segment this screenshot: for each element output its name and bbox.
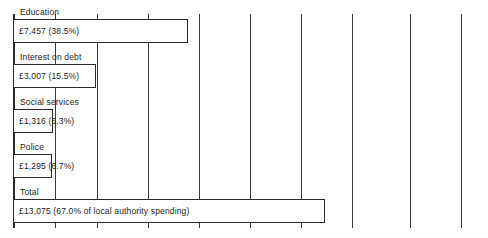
gridline-7 bbox=[352, 14, 353, 228]
bar-value-interest-on-debt: £3,007 (15.5%) bbox=[19, 71, 79, 81]
bar-value-police: £1,295 (6.7%) bbox=[19, 161, 74, 171]
bar-label-total: Total bbox=[20, 187, 39, 197]
bar-value-total: £13,075 (67.0% of local authority spendi… bbox=[19, 206, 189, 216]
gridline-stub-2 bbox=[55, 88, 56, 109]
gridline-9 bbox=[461, 14, 462, 228]
gridline-6 bbox=[301, 14, 302, 228]
gridline-5 bbox=[250, 14, 251, 228]
bar-value-education: £7,457 (38.5%) bbox=[19, 26, 79, 36]
bar-value-social-services: £1,316 (6.3%) bbox=[19, 116, 74, 126]
bar-label-police: Police bbox=[20, 142, 44, 152]
gridline-stub-3 bbox=[55, 133, 56, 154]
horizontal-bar-chart: Education £7,457 (38.5%) Interest on deb… bbox=[0, 0, 488, 238]
gridline-stub-1 bbox=[55, 43, 56, 64]
bar-label-interest-on-debt: Interest on debt bbox=[20, 52, 81, 62]
gridline-stub-4 bbox=[55, 178, 56, 199]
gridline-stub-6 bbox=[97, 133, 98, 154]
gridline-stub-5 bbox=[97, 88, 98, 109]
bar-label-education: Education bbox=[20, 7, 59, 17]
gridline-stub-7 bbox=[97, 178, 98, 199]
gridline-3 bbox=[148, 14, 149, 228]
gridline-8 bbox=[410, 14, 411, 228]
bar-label-social-services: Social services bbox=[20, 97, 79, 107]
gridline-4 bbox=[199, 14, 200, 228]
